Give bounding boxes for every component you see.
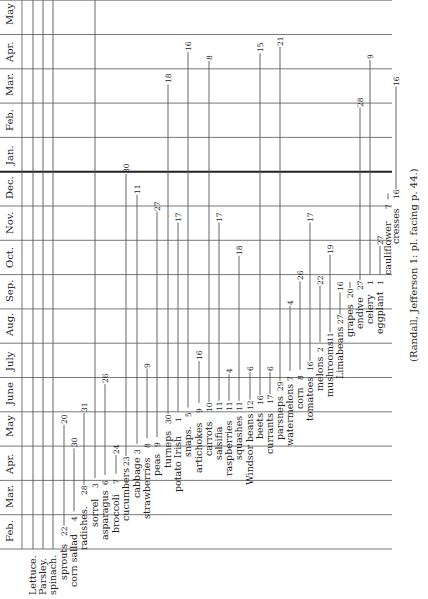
end-date-label: 9 xyxy=(366,54,375,59)
end-date-label: 17 xyxy=(215,212,224,222)
start-date-label: 12 xyxy=(246,400,255,410)
month-label: Sep. xyxy=(4,280,15,302)
end-date-label: 8 xyxy=(205,55,214,60)
start-date-label: 11 xyxy=(235,401,244,411)
start-date-label: 9 xyxy=(195,408,204,413)
month-label: Mar. xyxy=(4,73,15,96)
start-date-label: 1 xyxy=(376,280,385,285)
vegetable-label: cresses xyxy=(391,208,401,244)
vegetable-label: squashes xyxy=(234,416,244,460)
end-date-label: 30 xyxy=(70,438,79,448)
month-label: May xyxy=(4,3,15,25)
end-date-label: 4 xyxy=(225,368,234,373)
start-date-label: 3 xyxy=(91,483,100,488)
month-label: July xyxy=(4,351,15,370)
vegetable-label: peas xyxy=(152,454,162,476)
month-label: Apr. xyxy=(4,42,15,62)
start-date-label: 3 xyxy=(133,449,142,454)
vegetable-label: radishes. xyxy=(79,506,89,550)
start-date-label: 7 xyxy=(286,376,295,381)
end-date-label: 30 xyxy=(122,163,131,173)
end-date-label: 6 xyxy=(266,366,275,371)
vegetable-label: eggplant xyxy=(375,292,385,335)
end-date-label: 27 xyxy=(153,201,162,211)
month-label: Aug. xyxy=(4,313,15,336)
start-date-label: 8 xyxy=(143,444,152,449)
month-label: Jan. xyxy=(4,145,15,165)
end-date-label: 16 xyxy=(336,282,345,292)
end-date-label: 6 xyxy=(246,366,255,371)
month-label: Mar. xyxy=(4,485,15,508)
end-date-label: 4 xyxy=(286,300,295,305)
end-date-label: 26 xyxy=(101,374,110,384)
month-label: Feb. xyxy=(4,109,15,131)
end-date-label: 21 xyxy=(276,36,285,46)
end-date-label: 15 xyxy=(256,43,265,53)
start-date-label: 6 xyxy=(101,480,110,485)
end-date-label: 16 xyxy=(392,76,401,86)
end-date-label: 28 xyxy=(356,97,365,107)
end-date-label: 22 xyxy=(316,275,325,285)
start-date-label: 28 xyxy=(80,485,89,495)
start-date-label: 16 xyxy=(256,396,265,406)
vegetable-label: asparagus xyxy=(100,490,110,540)
start-date-label: 27 xyxy=(356,281,365,291)
month-label: Nov. xyxy=(4,211,15,233)
start-date-label: 9 xyxy=(153,442,162,447)
month-label: Oct. xyxy=(4,247,15,268)
start-date-label: 1 xyxy=(174,417,183,422)
end-date-label: 31 xyxy=(80,402,89,412)
start-date-label: 16 xyxy=(392,190,401,200)
month-label: June xyxy=(4,382,15,405)
end-date-label: 24 xyxy=(112,444,121,454)
vegetable-label: spinach. xyxy=(48,554,58,594)
end-date-label: 18 xyxy=(164,74,173,84)
start-date-label: 11 xyxy=(225,401,234,411)
vegetable-label: snaps. xyxy=(183,426,193,457)
end-date-label: 20 xyxy=(60,415,69,425)
citation: (Randall, Jefferson 1: pl. facing p. 44.… xyxy=(408,168,419,362)
start-date-label: 30 xyxy=(164,414,173,424)
month-label: Dec. xyxy=(4,177,15,200)
end-date-label: 16 xyxy=(195,350,204,360)
end-date-label: 16 xyxy=(184,42,193,52)
end-date-label: 11 xyxy=(133,184,142,194)
end-date-label: 26 xyxy=(296,271,305,281)
month-label: Apr. xyxy=(4,453,15,473)
start-date-label: 23 xyxy=(122,457,131,467)
start-date-label: 1 xyxy=(366,280,375,285)
end-date-label: 19 xyxy=(326,244,335,254)
end-date-label: 17 xyxy=(306,212,315,222)
end-date-label: 17 xyxy=(174,212,183,222)
vegetable-label: cucumbers xyxy=(121,468,131,521)
end-date-label: 9 xyxy=(143,363,152,368)
month-label: May xyxy=(4,415,15,437)
month-label: Feb. xyxy=(4,520,15,542)
end-date-label: 18 xyxy=(235,245,244,255)
start-date-label: 10 xyxy=(205,402,214,412)
start-date-label: 11 xyxy=(215,401,224,411)
start-date-label: 5 xyxy=(184,413,193,418)
